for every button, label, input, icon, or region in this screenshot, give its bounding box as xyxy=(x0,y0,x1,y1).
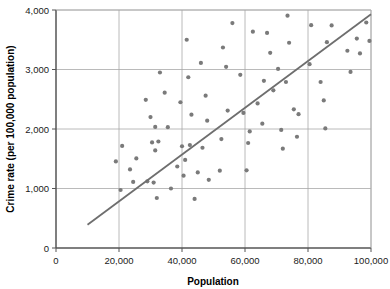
data-point xyxy=(295,135,299,139)
data-point xyxy=(241,111,245,115)
data-point xyxy=(134,156,138,160)
data-point xyxy=(322,98,326,102)
data-point xyxy=(256,101,260,105)
x-axis-title: Population xyxy=(187,276,239,287)
data-point xyxy=(307,62,311,66)
data-point xyxy=(262,79,266,83)
trend-line-segment xyxy=(88,14,372,225)
y-tick-label: 0 xyxy=(44,243,49,254)
data-point xyxy=(238,73,242,77)
x-tick-label: 100,000 xyxy=(354,255,388,266)
data-point xyxy=(155,196,159,200)
data-point xyxy=(205,119,209,123)
data-point xyxy=(251,30,255,34)
data-point xyxy=(204,94,208,98)
data-point xyxy=(128,167,132,171)
data-point xyxy=(355,36,359,40)
data-point xyxy=(244,168,248,172)
data-point xyxy=(148,115,152,119)
data-point xyxy=(144,98,148,102)
data-point xyxy=(131,180,135,184)
data-point xyxy=(163,91,167,95)
data-point xyxy=(292,107,296,111)
data-point xyxy=(319,80,323,84)
data-point xyxy=(153,125,157,129)
data-point xyxy=(207,178,211,182)
y-axis-tick-labels: 01,0002,0003,0004,000 xyxy=(25,5,49,254)
data-point xyxy=(276,67,280,71)
data-point xyxy=(196,170,200,174)
data-point xyxy=(150,140,154,144)
data-point xyxy=(189,113,193,117)
data-point xyxy=(185,38,189,42)
y-tick-label: 4,000 xyxy=(25,5,49,16)
data-point xyxy=(358,51,362,55)
scatter-chart: 01,0002,0003,0004,000 020,00040,00060,00… xyxy=(0,0,390,289)
data-point xyxy=(186,75,190,79)
data-point xyxy=(218,169,222,173)
x-tick-label: 0 xyxy=(53,255,58,266)
data-point xyxy=(153,148,157,152)
x-tick-label: 20,000 xyxy=(104,255,133,266)
data-point xyxy=(323,126,327,130)
x-axis-tick-labels: 020,00040,00060,00080,000100,000 xyxy=(53,255,388,266)
data-point xyxy=(221,45,225,49)
data-point xyxy=(226,108,230,112)
data-point xyxy=(219,137,223,141)
data-point xyxy=(200,146,204,150)
data-point xyxy=(169,186,173,190)
data-point xyxy=(114,159,118,163)
data-point xyxy=(348,70,352,74)
data-point xyxy=(230,21,234,25)
chart-canvas: 01,0002,0003,0004,000 020,00040,00060,00… xyxy=(0,0,390,289)
data-point xyxy=(268,51,272,55)
data-point xyxy=(287,41,291,45)
data-point xyxy=(199,61,203,65)
data-point xyxy=(284,80,288,84)
data-point xyxy=(224,65,228,69)
y-tick-label: 1,000 xyxy=(25,183,49,194)
data-point xyxy=(181,174,185,178)
y-tick-label: 2,000 xyxy=(25,124,49,135)
data-point xyxy=(156,139,160,143)
data-point xyxy=(166,125,170,129)
data-point xyxy=(158,70,162,74)
data-point xyxy=(178,100,182,104)
y-axis-title: Crime rate (per 100,000 population) xyxy=(5,45,16,212)
x-tick-label: 60,000 xyxy=(230,255,259,266)
data-point xyxy=(183,158,187,162)
data-point xyxy=(364,20,368,24)
data-point xyxy=(120,144,124,148)
data-point xyxy=(248,129,252,133)
data-point xyxy=(285,14,289,18)
data-point xyxy=(260,122,264,126)
x-tick-label: 40,000 xyxy=(167,255,196,266)
data-point xyxy=(152,180,156,184)
data-point xyxy=(325,40,329,44)
data-point xyxy=(193,197,197,201)
data-point xyxy=(265,31,269,35)
data-point xyxy=(118,188,122,192)
data-point xyxy=(296,112,300,116)
data-point xyxy=(246,141,250,145)
data-point xyxy=(345,49,349,53)
data-point xyxy=(279,128,283,132)
data-point xyxy=(330,23,334,27)
x-tick-label: 80,000 xyxy=(293,255,322,266)
data-point xyxy=(180,144,184,148)
data-point xyxy=(367,39,371,43)
data-point xyxy=(309,23,313,27)
data-point xyxy=(175,164,179,168)
trend-line xyxy=(88,14,372,225)
y-tick-label: 3,000 xyxy=(25,64,49,75)
data-point xyxy=(281,147,285,151)
